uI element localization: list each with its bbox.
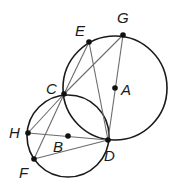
label-H: H	[9, 124, 20, 141]
segment-ED	[89, 42, 108, 140]
label-A: A	[120, 81, 131, 98]
label-B: B	[53, 138, 63, 155]
point-C	[61, 91, 67, 97]
point-H	[25, 130, 31, 136]
label-G: G	[117, 9, 129, 26]
point-D	[105, 137, 111, 143]
geometry-diagram: G E A C H B D F	[0, 0, 178, 187]
point-G	[120, 32, 126, 38]
label-D: D	[104, 147, 115, 164]
segment-FD	[34, 140, 108, 159]
point-B	[65, 133, 71, 139]
label-E: E	[75, 22, 86, 39]
point-A	[112, 85, 118, 91]
point-E	[86, 39, 92, 45]
label-F: F	[19, 164, 29, 181]
label-C: C	[46, 80, 57, 97]
point-F	[31, 156, 37, 162]
